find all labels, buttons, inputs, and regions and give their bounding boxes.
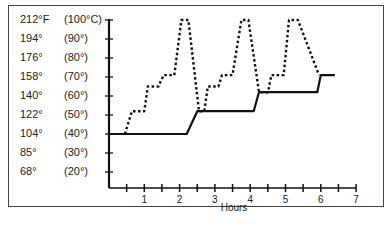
fahrenheit-label: 68° [20,165,37,177]
x-tick-label: 6 [318,194,324,205]
celsius-label: (80°) [64,51,88,63]
fahrenheit-label: 104° [20,127,43,139]
fahrenheit-label: 194° [20,32,43,44]
x-tick-label: 3 [212,194,218,205]
fahrenheit-label: 176° [20,51,43,63]
celsius-label: (50°) [64,108,88,120]
fahrenheit-label: 122° [20,108,43,120]
x-tick-label: 1 [142,194,148,205]
x-tick-label: 2 [177,194,183,205]
celsius-label: (90°) [64,32,88,44]
celsius-label: (60°) [64,89,88,101]
fahrenheit-label: 212°F [20,13,49,25]
x-axis-title: Hours [221,202,248,213]
celsius-label: (40°) [64,127,88,139]
celsius-label: (70°) [64,70,88,82]
celsius-label: (100°C) [64,13,102,25]
fahrenheit-label: 158° [20,70,43,82]
x-tick-label: 7 [353,194,359,205]
fahrenheit-label: 140° [20,89,43,101]
x-tick-label: 4 [247,194,253,205]
dotted-series-line [125,20,319,134]
celsius-label: (20°) [64,165,88,177]
fahrenheit-label: 85° [20,146,37,158]
x-tick-label: 5 [283,194,289,205]
chart-plot [0,0,391,227]
solid-series-line [109,75,335,134]
celsius-label: (30°) [64,146,88,158]
